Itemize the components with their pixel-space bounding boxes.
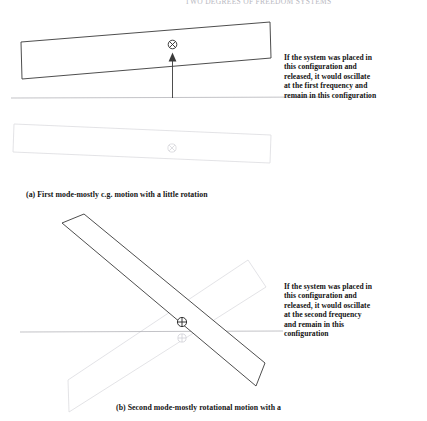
- static-equilibrium-line-b: [20, 331, 283, 332]
- ghost-cg-symbol-b: [178, 334, 186, 342]
- panel-a-note-line-5: remain in this configuration: [284, 91, 388, 100]
- panel-a-note: If the system was placed in this configu…: [284, 53, 388, 100]
- cg-symbol-circle-cross-a: [168, 40, 177, 49]
- displacement-arrow-up: [169, 53, 177, 99]
- undeflected-beam-ghost: [13, 124, 271, 163]
- panel-b-note-line-2: this configuration and: [284, 291, 388, 300]
- panel-b-note-line-6: configuration: [284, 329, 388, 338]
- deflected-beam: [21, 22, 271, 79]
- panel-b-caption: (b) Second mode-mostly rotational motion…: [116, 403, 281, 412]
- panel-a-note-line-1: If the system was placed in: [284, 53, 388, 62]
- ghost-cg-symbol: [168, 144, 176, 152]
- static-equilibrium-line-a: [11, 97, 322, 98]
- figure-page: TWO DEGREES OF FREEDOM SYSTEMS: [0, 0, 427, 421]
- panel-b-note-line-4: at the second frequency: [284, 310, 388, 319]
- panel-a-note-line-3: released, it would oscillate: [284, 72, 388, 81]
- panel-a-note-line-4: at the first frequency and: [284, 81, 388, 90]
- panel-a-graphic: [11, 22, 322, 163]
- panel-b-graphic: [20, 214, 283, 412]
- panel-a-caption: (a) First mode-mostly c.g. motion with a…: [26, 190, 208, 199]
- panel-b-note-line-3: released, it would oscillate: [284, 301, 388, 310]
- cg-symbol-circle-plus-b: [177, 317, 186, 326]
- panel-b-note: If the system was placed in this configu…: [284, 282, 388, 338]
- panel-b-note-line-5: and remain in this: [284, 320, 388, 329]
- panel-a-note-line-2: this configuration and: [284, 62, 388, 71]
- panel-b-note-line-1: If the system was placed in: [284, 282, 388, 291]
